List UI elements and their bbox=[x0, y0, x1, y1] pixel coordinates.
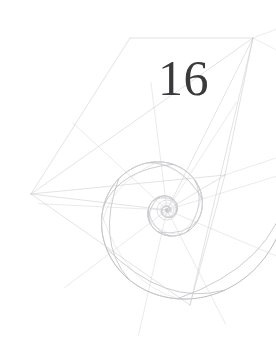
shell-stroke bbox=[253, 20, 276, 38]
shell-stroke bbox=[31, 194, 167, 210]
shell-stroke bbox=[225, 150, 276, 175]
shell-stroke bbox=[73, 123, 167, 210]
shell-stroke bbox=[102, 162, 203, 236]
shell-stroke bbox=[177, 188, 276, 299]
shell-stroke bbox=[225, 38, 253, 175]
chapter-opener-page: 16 bbox=[0, 0, 276, 356]
shell-stroke bbox=[187, 180, 199, 231]
shell-stroke bbox=[179, 191, 201, 235]
shell-stroke bbox=[150, 198, 157, 225]
chapter-number: 16 bbox=[158, 50, 222, 106]
shell-stroke bbox=[149, 221, 184, 234]
shell-stroke bbox=[31, 38, 130, 194]
shell-stroke bbox=[167, 102, 237, 210]
shell-stroke bbox=[253, 38, 276, 62]
shell-stroke bbox=[167, 210, 276, 260]
nautilus-shell-diagram bbox=[0, 0, 276, 356]
shell-stroke bbox=[167, 210, 226, 324]
shell-stroke bbox=[109, 179, 128, 279]
shell-stroke bbox=[102, 215, 179, 299]
shell-stroke bbox=[190, 175, 225, 305]
shell-line-art-group bbox=[31, 20, 276, 335]
